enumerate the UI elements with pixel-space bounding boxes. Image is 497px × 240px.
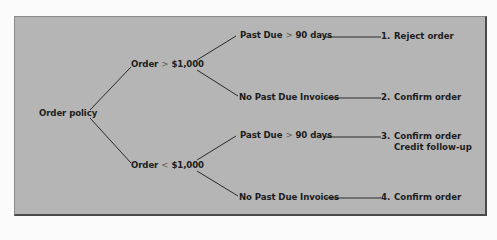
condition-value: $1,000 (171, 160, 204, 170)
node-past-due-90-upper: Past Due>90 days (240, 30, 332, 41)
condition-label: No Past Due Invoices (239, 92, 339, 102)
connector-lt1000-to-pastdue (197, 136, 236, 160)
outcome-2: 2.Confirm order (381, 92, 461, 103)
condition-operator: > (282, 130, 295, 140)
condition-operator: > (158, 59, 171, 69)
node-order-less-1000: Order<$1,000 (131, 160, 204, 171)
connector-lt1000-to-nopastdue (197, 171, 238, 196)
outcome-number: 4. (381, 192, 394, 203)
connector-gt1000-to-nopastdue (197, 70, 238, 96)
condition-value: $1,000 (171, 59, 204, 69)
condition-label: No Past Due Invoices (239, 192, 339, 202)
condition-subject: Order (131, 59, 158, 69)
outcome-action: Reject order (394, 31, 454, 41)
connector-root-to-gt1000 (90, 67, 131, 110)
condition-subject: Past Due (240, 30, 282, 40)
outcome-number: 2. (381, 92, 394, 103)
outcome-action: Confirm order (394, 92, 461, 102)
outcome-4: 4.Confirm order (381, 192, 461, 203)
outcome-action: Confirm order (394, 192, 461, 202)
condition-subject: Order (131, 160, 158, 170)
outcome-number: 3. (381, 131, 394, 142)
node-order-greater-1000: Order>$1,000 (131, 59, 204, 70)
condition-operator: > (282, 30, 295, 40)
root-label: Order policy (39, 108, 97, 118)
node-no-past-due-upper: No Past Due Invoices (239, 92, 339, 103)
connector-gt1000-to-pastdue (197, 36, 236, 60)
condition-value: 90 days (295, 130, 332, 140)
outcome-note: Credit follow-up (381, 142, 472, 153)
condition-subject: Past Due (240, 130, 282, 140)
outcome-1: 1.Reject order (381, 31, 454, 42)
root-node-order-policy: Order policy (39, 108, 97, 119)
condition-value: 90 days (295, 30, 332, 40)
outcome-number: 1. (381, 31, 394, 42)
outcome-3: 3.Confirm order Credit follow-up (381, 131, 472, 153)
connector-root-to-lt1000 (90, 118, 131, 163)
node-no-past-due-lower: No Past Due Invoices (239, 192, 339, 203)
condition-operator: < (158, 160, 171, 170)
outcome-action: Confirm order (394, 131, 461, 141)
node-past-due-90-lower: Past Due>90 days (240, 130, 332, 141)
